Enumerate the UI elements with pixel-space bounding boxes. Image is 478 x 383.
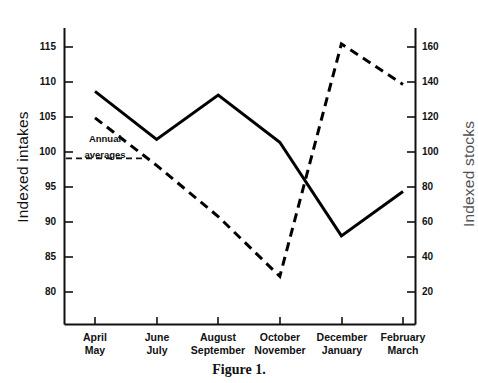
y-axis-right-title: Indexed stocks (460, 89, 478, 259)
left-tick-label-90: 90 (30, 216, 56, 227)
left-tick-label-100: 100 (30, 146, 56, 157)
series-line-indexed-intakes (95, 91, 403, 236)
left-tick-label-80: 80 (30, 286, 56, 297)
right-tick-label-20: 20 (422, 286, 448, 297)
left-tick-label-85: 85 (30, 251, 56, 262)
left-tick-label-115: 115 (30, 41, 56, 52)
annual-averages-label-line-1: Annual (68, 132, 142, 145)
chart-plot-area (0, 0, 478, 383)
right-axis-ticks (407, 47, 415, 292)
right-tick-label-100: 100 (422, 146, 448, 157)
x-category-line-1: February (360, 331, 446, 344)
x-category-february-march: February March (360, 331, 446, 357)
right-tick-label-120: 120 (422, 111, 448, 122)
right-tick-label-80: 80 (422, 181, 448, 192)
figure-container: Indexed intakes Indexed stocks 115 110 1… (0, 0, 478, 383)
left-axis-ticks (65, 47, 73, 292)
x-category-line-2: March (360, 344, 446, 357)
right-tick-label-60: 60 (422, 216, 448, 227)
annual-averages-annotation: Annual averages (68, 132, 142, 161)
left-tick-label-105: 105 (30, 111, 56, 122)
right-tick-label-160: 160 (422, 41, 448, 52)
right-tick-label-40: 40 (422, 251, 448, 262)
figure-caption: Figure 1. (0, 362, 478, 378)
left-tick-label-110: 110 (30, 76, 56, 87)
right-tick-label-140: 140 (422, 76, 448, 87)
left-tick-label-95: 95 (30, 181, 56, 192)
annual-averages-label-line-2: averages (68, 148, 142, 161)
x-axis-ticks (95, 317, 403, 324)
